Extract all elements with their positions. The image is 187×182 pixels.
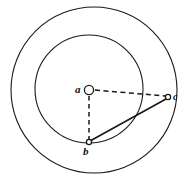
point-c-label: c: [173, 92, 177, 102]
point-c-marker: [165, 94, 170, 99]
solid-line-b-to-c: [90, 99, 166, 141]
dashed-line-a-to-c: [95, 90, 165, 96]
point-a-marker: [84, 85, 93, 94]
figure-canvas: [0, 0, 187, 182]
point-a-label: a: [75, 84, 81, 95]
point-b-label: b: [83, 146, 89, 157]
geometric-figure: a b c: [0, 0, 187, 182]
point-b-marker: [86, 139, 91, 144]
